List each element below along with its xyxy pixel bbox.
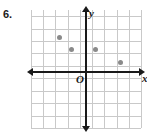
x-axis-left-arrow-icon bbox=[27, 68, 33, 76]
gridline-vertical bbox=[68, 10, 69, 128]
coordinate-plane: x y O bbox=[31, 10, 141, 128]
gridline-vertical bbox=[92, 10, 93, 128]
gridline-vertical bbox=[104, 10, 105, 128]
y-axis-label: y bbox=[89, 8, 94, 19]
x-axis-label: x bbox=[142, 73, 147, 84]
problem-number-label: 6. bbox=[3, 8, 12, 20]
data-point bbox=[69, 47, 74, 52]
gridline-vertical bbox=[80, 10, 81, 128]
data-point bbox=[57, 35, 62, 40]
origin-label: O bbox=[76, 74, 84, 85]
y-axis bbox=[85, 10, 87, 128]
gridline-vertical bbox=[55, 10, 56, 128]
problem-figure: 6. x y O bbox=[0, 0, 147, 138]
gridline-vertical bbox=[117, 10, 118, 128]
data-point bbox=[118, 60, 123, 65]
gridline-vertical bbox=[43, 10, 44, 128]
gridline-vertical bbox=[129, 10, 130, 128]
data-point bbox=[93, 47, 98, 52]
y-axis-down-arrow-icon bbox=[82, 126, 90, 132]
